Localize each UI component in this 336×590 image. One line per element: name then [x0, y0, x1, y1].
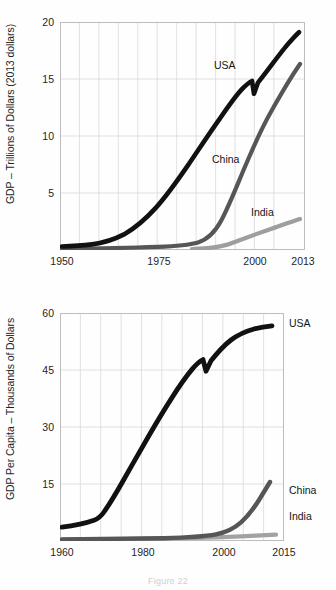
y-tick-bottom-45: 45 [28, 365, 54, 375]
y-axis-title-top: GDP – Trillions of Dollars (2013 dollars… [2, 0, 18, 228]
y-tick-labels-bottom: 60 45 30 15 [26, 313, 54, 541]
x-tick-labels-bottom: 1960 1980 2000 2015 [60, 547, 284, 561]
series-line-india-top [192, 219, 300, 249]
y-tick-top-10: 10 [28, 131, 54, 141]
x-tick-top-1950: 1950 [50, 256, 73, 267]
series-label-usa-top: USA [214, 60, 236, 71]
x-tick-top-2000: 2000 [243, 256, 266, 267]
series-label-india-bottom: India [289, 511, 312, 522]
series-label-usa-bottom: USA [289, 318, 311, 329]
chart-gdp-per-capita: GDP Per Capita – Thousands of Dollars 60… [0, 295, 336, 590]
horizontal-gridlines-bottom [60, 370, 284, 484]
chart-gdp-total: GDP – Trillions of Dollars (2013 dollars… [0, 0, 336, 295]
series-line-china-bottom [62, 482, 270, 539]
series-line-china-top [62, 64, 300, 249]
series-line-usa-bottom [62, 326, 272, 527]
figure-page: GDP – Trillions of Dollars (2013 dollars… [0, 0, 336, 590]
y-tick-bottom-60: 60 [28, 308, 54, 318]
x-tick-bottom-2015: 2015 [272, 547, 295, 558]
x-tick-bottom-2000: 2000 [212, 547, 235, 558]
y-axis-title-bottom: GDP Per Capita – Thousands of Dollars [2, 295, 18, 523]
y-tick-labels-top: 20 15 10 5 [26, 22, 54, 250]
y-tick-bottom-30: 30 [28, 422, 54, 432]
x-tick-bottom-1980: 1980 [131, 547, 154, 558]
y-tick-top-15: 15 [28, 74, 54, 84]
x-tick-labels-top: 1950 1975 2000 2013 [60, 256, 305, 270]
x-tick-top-2013: 2013 [291, 256, 314, 267]
figure-caption: Figure 22 [0, 576, 336, 586]
x-tick-bottom-1960: 1960 [50, 547, 73, 558]
series-label-china-bottom: China [289, 485, 316, 496]
plot-area-bottom [60, 313, 284, 541]
series-label-china-top: China [212, 154, 239, 165]
plot-svg-bottom [60, 313, 284, 541]
y-tick-bottom-15: 15 [28, 479, 54, 489]
x-tick-top-1975: 1975 [147, 256, 170, 267]
plot-area-top: USA China India [60, 22, 305, 250]
y-tick-top-5: 5 [28, 188, 54, 198]
y-tick-top-20: 20 [28, 17, 54, 27]
series-label-india-top: India [251, 207, 274, 218]
